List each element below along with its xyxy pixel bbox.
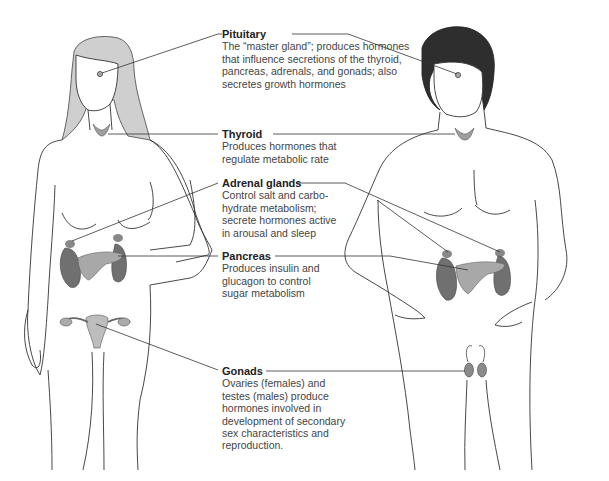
female-face xyxy=(76,55,118,111)
label-title: Adrenal glands xyxy=(222,177,412,189)
label-title: Pituitary xyxy=(222,28,412,40)
label-gonads: Gonads Ovaries (females) and testes (mal… xyxy=(222,365,412,452)
leader-adrenal-female xyxy=(72,183,218,241)
label-description: Produces hormones that regulate metaboli… xyxy=(222,140,362,165)
female-kidney-right xyxy=(112,244,127,282)
male-kidney-right xyxy=(494,256,511,295)
female-ovary-left xyxy=(60,318,72,326)
female-thyroid xyxy=(93,124,110,136)
label-description: The “master gland”; produces hormones th… xyxy=(222,40,412,90)
female-uterus xyxy=(86,315,108,348)
female-ovary-right xyxy=(118,318,130,326)
female-adrenal-left xyxy=(65,240,75,248)
label-description: Control salt and carbo-hydrate metabolis… xyxy=(222,189,340,239)
male-face xyxy=(434,62,483,117)
label-thyroid: Thyroid Produces hormones that regulate … xyxy=(222,128,412,165)
label-title: Pancreas xyxy=(222,250,412,262)
leader-gonads-female xyxy=(96,324,218,370)
male-thyroid xyxy=(455,128,474,140)
label-description: Ovaries (females) and testes (males) pro… xyxy=(222,377,346,451)
label-title: Gonads xyxy=(222,365,412,377)
female-adrenal-right xyxy=(113,234,123,242)
label-pituitary: Pituitary The “master gland”; produces h… xyxy=(222,28,412,90)
male-testis-right xyxy=(478,363,487,377)
label-pancreas: Pancreas Produces insulin and glucagon t… xyxy=(222,250,412,300)
male-testis-left xyxy=(465,363,474,377)
male-pituitary-dot xyxy=(455,72,460,77)
label-description: Produces insulin and glucagon to control… xyxy=(222,262,332,299)
male-glands xyxy=(436,72,510,377)
label-title: Thyroid xyxy=(222,128,412,140)
male-kidney-left xyxy=(436,258,456,300)
female-kidney-left xyxy=(60,248,80,288)
label-adrenal-glands: Adrenal glands Control salt and carbo-hy… xyxy=(222,177,412,239)
female-pituitary-dot xyxy=(97,71,102,76)
